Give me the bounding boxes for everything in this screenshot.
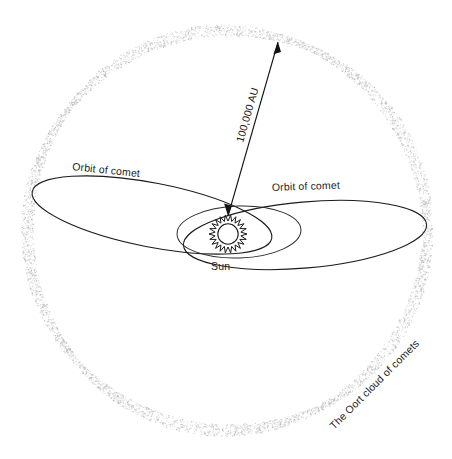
label-sun: Sun: [211, 260, 230, 272]
oort-cloud-figure: Orbit of comet Orbit of comet Sun 100,00…: [0, 0, 452, 459]
sun-core-icon: [218, 224, 238, 244]
oort-cloud-diagram: Orbit of comet Orbit of comet Sun 100,00…: [0, 0, 452, 459]
label-orbit-right: Orbit of comet: [272, 179, 340, 193]
